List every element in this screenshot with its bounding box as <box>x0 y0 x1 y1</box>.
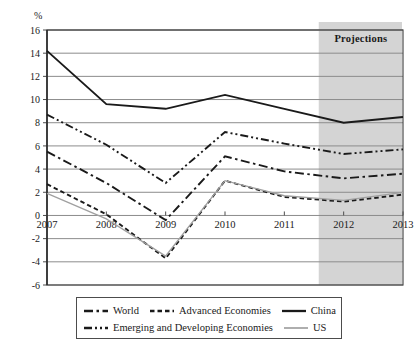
y-axis-tick-label: -2 <box>32 233 40 244</box>
x-axis-tick-label: 2008 <box>96 219 117 230</box>
legend-label-emerging-and-developing-economies: Emerging and Developing Economies <box>113 322 273 333</box>
legend-label-world: World <box>113 305 139 316</box>
x-axis-tick-label: 2012 <box>333 219 354 230</box>
chart-plot-area: 1614121086420-2-4-6200720082009201020112… <box>0 0 416 292</box>
legend-swatch-emerging-and-developing-economies <box>83 323 109 333</box>
y-axis-tick-label: 8 <box>35 117 40 128</box>
chart-legend: WorldAdvanced EconomiesChinaEmerging and… <box>76 297 342 339</box>
y-axis-tick-label: 16 <box>30 25 40 36</box>
y-axis-tick-label: -4 <box>32 256 40 267</box>
projections-label: Projections <box>334 33 387 44</box>
legend-row: WorldAdvanced EconomiesChina <box>83 302 335 319</box>
legend-swatch-world <box>83 306 109 316</box>
legend-swatch-china <box>281 306 307 316</box>
y-axis-tick-label: 4 <box>35 164 40 175</box>
legend-label-us: US <box>313 322 326 333</box>
legend-item-china[interactable]: China <box>281 305 346 316</box>
legend-swatch-us <box>283 323 309 333</box>
y-axis-tick-label: 12 <box>30 71 40 82</box>
line-chart-svg: 1614121086420-2-4-6200720082009201020112… <box>0 0 416 292</box>
legend-label-china: China <box>311 305 336 316</box>
legend-label-advanced-economies: Advanced Economies <box>179 305 271 316</box>
legend-item-emerging-and-developing-economies[interactable]: Emerging and Developing Economies <box>83 322 283 333</box>
y-axis-tick-label: -6 <box>32 280 40 291</box>
legend-item-us[interactable]: US <box>283 322 336 333</box>
y-axis-unit-label: % <box>34 10 42 21</box>
x-axis-tick-label: 2007 <box>37 219 58 230</box>
legend-row: Emerging and Developing EconomiesUS <box>83 319 335 336</box>
legend-swatch-advanced-economies <box>149 306 175 316</box>
figure-container: 1614121086420-2-4-6200720082009201020112… <box>0 0 416 349</box>
y-axis-tick-label: 2 <box>35 187 40 198</box>
y-axis-tick-label: 6 <box>35 141 40 152</box>
x-axis-tick-label: 2010 <box>215 219 236 230</box>
y-axis-tick-label: 14 <box>30 48 40 59</box>
legend-item-world[interactable]: World <box>83 305 149 316</box>
legend-item-advanced-economies[interactable]: Advanced Economies <box>149 305 281 316</box>
x-axis-tick-label: 2013 <box>393 219 414 230</box>
y-axis-tick-label: 10 <box>30 94 40 105</box>
x-axis-tick-label: 2011 <box>274 219 295 230</box>
